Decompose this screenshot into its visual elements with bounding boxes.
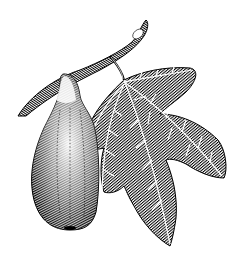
engraving-canvas [0, 0, 240, 267]
fig-illustration [0, 0, 240, 267]
fig-leaf [84, 67, 226, 246]
fig-eye [64, 226, 76, 230]
